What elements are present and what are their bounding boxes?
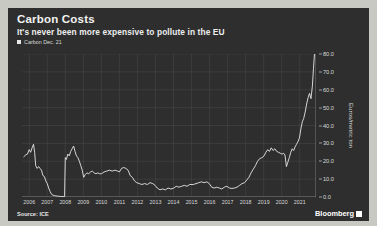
x-axis-tick-label: 2006: [23, 199, 35, 205]
chart-subtitle: It's never been more expensive to pollut…: [17, 27, 225, 37]
y-axis-tick-label: 30.0: [323, 140, 334, 146]
x-axis-tick-label: 2020: [276, 199, 288, 205]
y-axis-tick-mark: [319, 107, 322, 108]
x-axis-tick-label: 2019: [258, 199, 270, 205]
legend-swatch-icon: [17, 40, 21, 44]
y-axis-tick-mark: [319, 143, 322, 144]
y-axis-tick-mark: [319, 197, 322, 198]
x-axis-tick-label: 2021: [294, 199, 306, 205]
y-axis-tick-label: 50.0: [323, 105, 334, 111]
x-axis-tick-label: 2009: [77, 199, 89, 205]
plot-area: [22, 54, 316, 197]
y-axis-tick-mark: [319, 71, 322, 72]
x-axis-tick-label: 2010: [95, 199, 107, 205]
y-axis-title-text: Euros/metric ton: [349, 103, 356, 148]
y-axis-labels: 0.010.020.030.040.050.060.070.080.0: [319, 54, 349, 197]
x-axis-tick-label: 2016: [204, 199, 216, 205]
y-axis-tick-mark: [319, 125, 322, 126]
y-axis-tick-mark: [319, 89, 322, 90]
x-axis-tick-label: 2008: [59, 199, 71, 205]
x-axis-tick-label: 2013: [150, 199, 162, 205]
y-axis-tick-label: 40.0: [323, 123, 334, 129]
y-axis-tick-mark: [319, 54, 322, 55]
x-axis-tick-label: 2014: [168, 199, 180, 205]
y-axis-tick-label: 10.0: [323, 176, 334, 182]
y-axis-tick-label: 20.0: [323, 158, 334, 164]
y-axis-tick-label: 60.0: [323, 87, 334, 93]
x-axis-tick-label: 2011: [114, 199, 125, 205]
y-axis-tick-label: 80.0: [323, 51, 334, 57]
y-axis-tick-label: 70.0: [323, 69, 334, 75]
legend-label: Carbon Dec. 21: [24, 39, 62, 45]
x-axis-tick-label: 2012: [132, 199, 144, 205]
x-axis-tick-label: 2018: [240, 199, 252, 205]
bloomberg-brand: Bloomberg: [315, 209, 362, 218]
x-axis-tick-label: 2017: [222, 199, 234, 205]
x-axis-tick-label: 2015: [186, 199, 198, 205]
screenshot-root: Carbon Costs It's never been more expens…: [0, 0, 377, 226]
chart-legend: Carbon Dec. 21: [17, 39, 62, 45]
bloomberg-logo-icon: [356, 211, 362, 217]
brand-text: Bloomberg: [315, 209, 354, 218]
x-axis-tick-label: 2007: [41, 199, 53, 205]
x-axis-labels: 2006200720082009201020112012201320142015…: [22, 199, 316, 209]
page-title: Carbon Costs: [17, 13, 95, 25]
y-axis-tick-mark: [319, 161, 322, 162]
chart-panel: Carbon Costs It's never been more expens…: [8, 8, 369, 221]
y-axis-title: Euros/metric ton: [346, 54, 358, 197]
source-note: Source: ICE: [17, 211, 49, 217]
y-axis-tick-mark: [319, 179, 322, 180]
line-chart-svg: [22, 54, 316, 197]
y-axis-tick-label: 0.0: [323, 194, 331, 200]
